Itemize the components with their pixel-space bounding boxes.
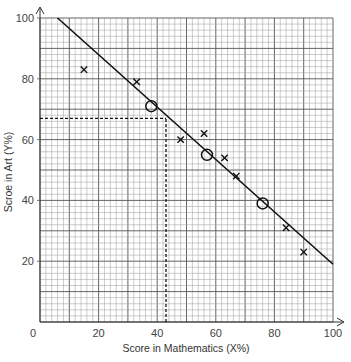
tick-labels: 02040608010020406080100 bbox=[16, 12, 343, 339]
y-tick-label: 60 bbox=[22, 134, 34, 146]
x-tick-label: 80 bbox=[268, 327, 280, 339]
x-tick-label: 40 bbox=[151, 327, 163, 339]
y-axis-title: Scroe in Art (Y%) bbox=[2, 132, 14, 213]
y-tick-label: 40 bbox=[22, 194, 34, 206]
y-tick-label: 20 bbox=[22, 255, 34, 267]
x-axis-title: Score in Mathematics (X%) bbox=[122, 342, 249, 354]
x-tick-label: 100 bbox=[324, 327, 342, 339]
cross-marker-icon bbox=[133, 79, 139, 85]
data-markers bbox=[81, 66, 307, 255]
grid bbox=[40, 18, 333, 322]
cross-marker-icon bbox=[81, 66, 87, 72]
x-tick-label: 60 bbox=[210, 327, 222, 339]
x-tick-label: 0 bbox=[30, 327, 36, 339]
y-tick-label: 80 bbox=[22, 73, 34, 85]
x-tick-label: 20 bbox=[92, 327, 104, 339]
y-tick-label: 100 bbox=[16, 12, 34, 24]
scatter-chart: 02040608010020406080100 Score in Mathema… bbox=[0, 0, 351, 362]
